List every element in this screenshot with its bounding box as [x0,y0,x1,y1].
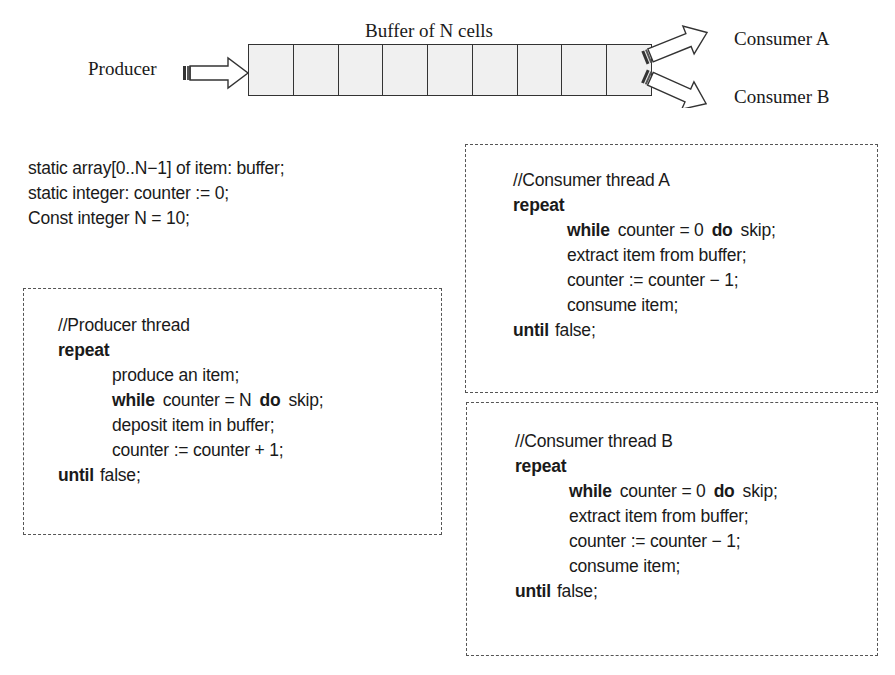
buffer-cell [473,45,518,95]
while-condition: counter = 0 [620,481,706,501]
consumer-a-code: //Consumer thread A repeat whilecounter … [513,168,776,343]
while-keyword: while [569,481,612,501]
do-keyword: do [260,390,281,410]
declaration-buffer: static array[0..N−1] of item: buffer; [28,156,284,181]
producer-comment: //Producer thread [58,313,324,338]
skip-statement: skip; [289,390,324,410]
buffer-cell [383,45,428,95]
declaration-counter: static integer: counter := 0; [28,181,284,206]
consumer-a-consume-line: consume item; [513,293,776,318]
while-keyword: while [112,390,155,410]
declaration-n: Const integer N = 10; [28,206,284,231]
consumer-b-label: Consumer B [734,86,830,108]
producer-while-line: whilecounter = Ndoskip; [58,388,324,413]
producer-label: Producer [88,58,157,80]
consumer-b-repeat-keyword: repeat [515,454,778,479]
producer-code: //Producer thread repeat produce an item… [58,313,324,488]
while-condition: counter = 0 [618,220,704,240]
consumer-a-comment: //Consumer thread A [513,168,776,193]
consumer-arrows [638,18,718,108]
until-keyword: until [515,581,551,601]
buffer-cell [249,45,294,95]
while-condition: counter = N [163,390,252,410]
consumer-b-code: //Consumer thread B repeat whilecounter … [515,429,778,604]
until-condition: false; [555,320,596,340]
skip-statement: skip; [743,481,778,501]
until-condition: false; [557,581,598,601]
until-condition: false; [100,465,141,485]
do-keyword: do [712,220,733,240]
buffer-title: Buffer of N cells [365,20,493,42]
buffer-cell [339,45,384,95]
buffer-cell [428,45,473,95]
consumer-b-consume-line: consume item; [515,554,778,579]
declarations: static array[0..N−1] of item: buffer; st… [28,156,284,231]
consumer-a-extract-line: extract item from buffer; [513,243,776,268]
producer-increment-line: counter := counter + 1; [58,438,324,463]
consumer-a-until-line: untilfalse; [513,318,776,343]
buffer-cell [562,45,607,95]
consumer-b-comment: //Consumer thread B [515,429,778,454]
buffer [248,44,652,96]
until-keyword: until [513,320,549,340]
consumer-a-repeat-keyword: repeat [513,193,776,218]
producer-produce-line: produce an item; [58,363,324,388]
while-keyword: while [567,220,610,240]
buffer-cell [294,45,339,95]
consumer-b-until-line: untilfalse; [515,579,778,604]
right-arrow-icon [182,56,256,92]
producer-repeat-keyword: repeat [58,338,324,363]
skip-statement: skip; [741,220,776,240]
buffer-cell [518,45,563,95]
up-right-arrow-icon [638,19,712,72]
consumer-a-decrement-line: counter := counter − 1; [513,268,776,293]
do-keyword: do [714,481,735,501]
consumer-a-label: Consumer A [734,28,830,50]
consumer-a-while-line: whilecounter = 0doskip; [513,218,776,243]
producer-deposit-line: deposit item in buffer; [58,413,324,438]
down-right-arrow-icon [638,62,712,108]
until-keyword: until [58,465,94,485]
consumer-b-while-line: whilecounter = 0doskip; [515,479,778,504]
consumer-b-decrement-line: counter := counter − 1; [515,529,778,554]
producer-until-line: untilfalse; [58,463,324,488]
consumer-b-extract-line: extract item from buffer; [515,504,778,529]
